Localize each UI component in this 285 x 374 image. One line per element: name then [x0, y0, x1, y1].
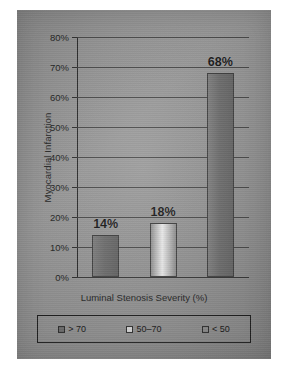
y-tick-label-0: 0%	[55, 272, 69, 283]
y-tick-mark-20	[72, 217, 77, 218]
legend-swatch-icon-1	[58, 326, 65, 333]
gridline-0	[77, 277, 249, 278]
y-tick-mark-0	[72, 277, 77, 278]
y-tick-mark-40	[72, 157, 77, 158]
legend-item-2[interactable]: 50–70	[126, 324, 161, 334]
y-tick-label-60: 60%	[50, 92, 69, 103]
chart-panel: Myocardial Infarction 0%10%20%30%40%50%6…	[17, 10, 271, 359]
bar-2	[150, 223, 177, 277]
legend-item-3[interactable]: < 50	[202, 324, 230, 334]
legend-swatch-icon-2	[126, 326, 133, 333]
x-axis-title: Luminal Stenosis Severity (%)	[17, 292, 271, 303]
bar-value-label-1: 14%	[93, 217, 118, 231]
legend-item-1[interactable]: > 70	[58, 324, 86, 334]
bar-1	[92, 235, 119, 277]
y-tick-label-80: 80%	[50, 32, 69, 43]
y-tick-mark-60	[72, 97, 77, 98]
bar-value-label-2: 18%	[150, 205, 175, 219]
y-tick-label-10: 10%	[50, 242, 69, 253]
y-tick-mark-10	[72, 247, 77, 248]
y-tick-mark-70	[72, 67, 77, 68]
y-tick-mark-50	[72, 127, 77, 128]
y-tick-mark-30	[72, 187, 77, 188]
y-tick-label-30: 30%	[50, 182, 69, 193]
y-tick-label-40: 40%	[50, 152, 69, 163]
plot-area: 0%10%20%30%40%50%60%70%80% 14%18%68%	[77, 37, 249, 277]
gridline-80	[77, 37, 249, 38]
y-tick-label-70: 70%	[50, 62, 69, 73]
y-tick-label-20: 20%	[50, 212, 69, 223]
bar-value-label-3: 68%	[208, 55, 233, 69]
y-tick-mark-80	[72, 37, 77, 38]
bar-chart: Myocardial Infarction 0%10%20%30%40%50%6…	[17, 10, 271, 359]
chart-legend: > 7050–70< 50	[37, 315, 251, 343]
legend-label-2: 50–70	[136, 324, 161, 334]
legend-label-1: > 70	[68, 324, 86, 334]
figure-root: Myocardial Infarction 0%10%20%30%40%50%6…	[0, 0, 285, 374]
legend-label-3: < 50	[212, 324, 230, 334]
legend-swatch-icon-3	[202, 326, 209, 333]
y-tick-label-50: 50%	[50, 122, 69, 133]
bar-3	[207, 73, 234, 277]
